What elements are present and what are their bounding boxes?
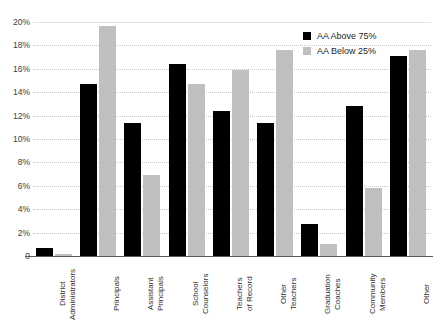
bar-group (254, 22, 298, 256)
bar-group (210, 22, 254, 256)
bar-below-25[interactable] (143, 175, 160, 256)
legend-item[interactable]: AA Below 25% (303, 44, 377, 57)
bar-below-25[interactable] (99, 26, 116, 256)
legend-swatch-icon (303, 32, 311, 40)
x-axis-tick-label: Other (387, 260, 431, 328)
bar-above-75[interactable] (213, 111, 230, 256)
x-axis-tick-label: Graduation Coaches (298, 260, 342, 328)
chart-legend: AA Above 75%AA Below 25% (303, 29, 377, 59)
y-axis-tick-label: 12% (0, 111, 30, 121)
y-axis-tick-label: 20% (0, 17, 30, 27)
bar-group (33, 22, 77, 256)
bar-group (77, 22, 121, 256)
bar-below-25[interactable] (320, 244, 337, 256)
y-axis-tick-label: 18% (0, 40, 30, 50)
bar-above-75[interactable] (80, 84, 97, 256)
x-axis-tick-label: School Counselors (166, 260, 210, 328)
bar-below-25[interactable] (232, 70, 249, 256)
y-axis-tick-label: 16% (0, 64, 30, 74)
bar-below-25[interactable] (409, 50, 426, 256)
y-axis-tick-label: 10% (0, 134, 30, 144)
bar-below-25[interactable] (276, 50, 293, 256)
x-axis-labels: District AdministratorsPrincipalsAssista… (33, 258, 431, 329)
bar-group (166, 22, 210, 256)
legend-label: AA Above 75% (317, 31, 377, 41)
bar-above-75[interactable] (124, 123, 141, 256)
bar-above-75[interactable] (346, 106, 363, 256)
x-axis-tick-label: Principals (77, 260, 121, 328)
bar-chart: 20%18%16%14%12%10%8%6%4%2%0 District Adm… (0, 0, 437, 329)
bar-above-75[interactable] (169, 64, 186, 256)
y-axis-tick-label: 8% (0, 157, 30, 167)
x-axis-tick-label: Other Teachers (254, 260, 298, 328)
bar-below-25[interactable] (365, 188, 382, 256)
legend-item[interactable]: AA Above 75% (303, 29, 377, 42)
y-axis-tick-label: 2% (0, 228, 30, 238)
bar-group (121, 22, 165, 256)
bar-above-75[interactable] (36, 248, 53, 256)
bar-below-25[interactable] (188, 84, 205, 256)
bar-above-75[interactable] (301, 224, 318, 256)
y-axis-tick-label: 6% (0, 181, 30, 191)
y-axis: 20%18%16%14%12%10%8%6%4%2%0 (0, 22, 30, 256)
x-axis-tick-label: Community Members (343, 260, 387, 328)
x-axis-line (25, 256, 433, 257)
bar-group (387, 22, 431, 256)
x-axis-tick-label: Assistant Principals (121, 260, 165, 328)
y-axis-tick-label: 14% (0, 87, 30, 97)
x-axis-tick-label: District Administrators (33, 260, 77, 328)
legend-label: AA Below 25% (317, 46, 376, 56)
legend-swatch-icon (303, 47, 311, 55)
x-axis-tick-label: Teachers of Record (210, 260, 254, 328)
y-axis-tick-label: 4% (0, 204, 30, 214)
bar-above-75[interactable] (390, 56, 407, 256)
bar-above-75[interactable] (257, 123, 274, 256)
